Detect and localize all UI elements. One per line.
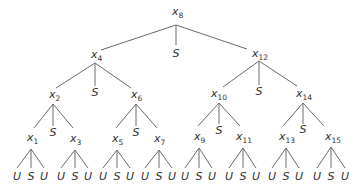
node-subscript: 6 [138,94,143,103]
node-label-x6: x6 [130,88,143,103]
leaf-label: U [341,170,349,183]
node-label-x2: x2 [48,88,61,103]
leaf-edge [117,150,130,168]
leaf-edge [199,148,212,168]
leaf-label: S [156,170,163,183]
node-label-x8: x8 [171,5,184,20]
node-subscript: 5 [119,138,124,147]
leaf-label: U [225,170,233,183]
node-subscript: 12 [259,53,269,62]
leaf-label: U [126,170,134,183]
node-label-x3: x3 [69,132,82,147]
node-label-x11: x11 [235,130,252,145]
leaf-label: U [268,170,276,183]
node-subscript: 10 [218,93,228,102]
tree-edge [34,104,53,128]
tree-edge [198,103,219,126]
leaf-label: U [208,170,216,183]
leaf-edge [145,150,159,168]
s-label: S [216,124,223,137]
node-subscript: 8 [179,11,184,20]
leaf-edge [317,147,331,168]
node-subscript: 7 [161,138,166,147]
leaf-label: S [72,170,79,183]
leaf-label: U [313,170,321,183]
s-label: S [300,123,307,136]
node-label-x15: x15 [324,130,341,145]
tree-edge [101,25,176,50]
ternary-tree-diagram: x8x4x12x2x6x10x14x1x3x5x7x9x11x13x15 SSS… [0,0,362,188]
leaf-edge [17,149,31,168]
leaf-label: U [141,170,149,183]
node-label-x1: x1 [26,131,39,146]
leaf-edge [286,148,299,168]
leaf-label: S [28,170,35,183]
leaf-edge [61,150,75,168]
node-label-x10: x10 [210,87,227,102]
s-label: S [133,126,140,139]
node-label-x13: x13 [278,130,295,145]
node-subscript: 3 [77,138,82,147]
leaf-edge [272,148,286,168]
leaf-label: S [240,170,247,183]
s-label: S [92,86,99,99]
node-label-x9: x9 [193,130,206,145]
leaf-edge [243,148,256,168]
tree-edge [136,104,157,128]
node-subscript: 14 [303,93,313,102]
leaf-edge [103,150,117,168]
node-subscript: 15 [332,136,342,145]
leaf-edge [159,150,172,168]
node-subscript: 9 [201,136,206,145]
tree-edge [95,63,131,88]
leaf-edge [75,150,88,168]
leaf-label: S [196,170,203,183]
leaf-label: U [84,170,92,183]
s-label: S [256,85,263,98]
node-label-x5: x5 [111,132,124,147]
leaf-label: U [181,170,189,183]
leaf-label: U [99,170,107,183]
node-subscript: 13 [286,136,296,145]
leaf-label: S [283,170,290,183]
tree-nodes: x8x4x12x2x6x10x14x1x3x5x7x9x11x13x15 [26,5,341,147]
leaf-edge [185,148,199,168]
node-label-x12: x12 [251,47,268,62]
leaf-labels: USUUSUUSUUSUUSUUSUUSUUSU [13,170,349,183]
node-subscript: 2 [56,94,61,103]
node-label-x7: x7 [153,132,166,147]
leaf-label: U [252,170,260,183]
leaf-edge [229,148,243,168]
node-label-x4: x4 [90,48,103,63]
leaf-label: S [328,170,335,183]
tree-edge [176,25,247,49]
leaf-edge [31,149,44,168]
leaf-label: U [295,170,303,183]
leaf-label: U [40,170,48,183]
tree-edge [259,61,297,86]
tree-edge [219,103,240,126]
leaf-label: U [168,170,176,183]
s-label: S [50,126,57,139]
tree-edge [56,63,95,88]
leaf-label: U [13,170,21,183]
leaf-label: U [57,170,65,183]
node-subscript: 1 [34,137,39,146]
tree-edge [223,61,259,87]
node-subscript: 11 [243,136,253,145]
node-label-x14: x14 [295,87,312,102]
s-label: S [173,47,180,60]
tree-edge [53,104,73,128]
leaf-label: S [114,170,121,183]
leaf-edge [331,147,345,168]
node-subscript: 4 [98,54,103,63]
tree-edge [116,104,136,128]
